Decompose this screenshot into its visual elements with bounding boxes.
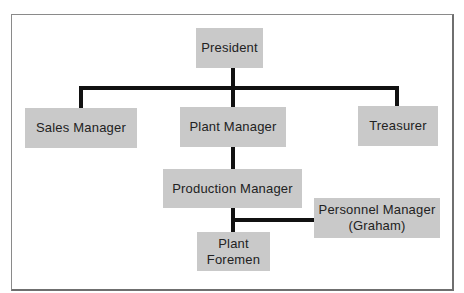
node-label-line1: Plant: [218, 236, 249, 252]
node-production-manager: Production Manager: [163, 169, 302, 208]
node-sales-manager: Sales Manager: [25, 108, 137, 148]
node-president: President: [196, 28, 263, 68]
connector-treasurer-drop: [395, 86, 399, 106]
node-label-line1: Personnel Manager: [319, 202, 436, 218]
node-treasurer: Treasurer: [358, 106, 438, 146]
connector-personnel: [231, 218, 315, 222]
node-label-line2: (Graham): [348, 218, 405, 234]
node-label: Sales Manager: [36, 120, 126, 136]
node-label: Production Manager: [172, 181, 293, 197]
node-plant-manager: Plant Manager: [180, 107, 286, 147]
connector-sales-drop: [79, 86, 83, 108]
node-personnel-manager: Personnel Manager (Graham): [314, 198, 440, 238]
node-label-line2: Foremen: [207, 252, 260, 268]
node-label: Plant Manager: [189, 119, 276, 135]
connector-top-horizontal: [79, 86, 399, 90]
connector-plant-production: [231, 147, 235, 169]
node-label: Treasurer: [369, 118, 427, 134]
node-label: President: [201, 40, 258, 56]
node-plant-foremen: Plant Foremen: [197, 232, 270, 271]
